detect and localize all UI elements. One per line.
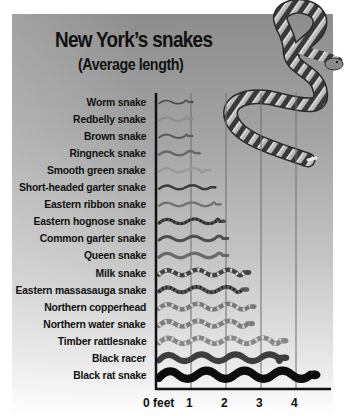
snake-bar: [159, 371, 315, 379]
snake-bar: [159, 100, 192, 104]
snake-head-icon: [221, 220, 226, 224]
snake-head-icon: [225, 237, 230, 240]
x-tick-label: 2: [221, 396, 228, 410]
snake-bar: [159, 134, 192, 138]
category-label: Eastern massasauga snake: [15, 283, 146, 297]
x-tick-label: 3: [256, 396, 263, 410]
snake-bar: [159, 236, 227, 241]
snake-head-icon: [197, 152, 201, 155]
category-label: Short-headed garter snake: [19, 180, 146, 194]
snake-bar: [159, 253, 227, 258]
category-label: Eastern hognose snake: [34, 214, 146, 228]
category-label: Worm snake: [86, 95, 146, 109]
category-label: Common garter snake: [40, 231, 146, 245]
snake-bar: [159, 117, 192, 121]
snake-head-icon: [191, 118, 194, 120]
snake-head-icon: [309, 370, 321, 379]
category-label: Northern copperhead: [44, 300, 146, 314]
snake-bar: [159, 354, 285, 361]
category-label: Queen snake: [84, 248, 146, 262]
snake-head-icon: [191, 135, 194, 137]
category-label: Black rat snake: [73, 368, 146, 382]
category-label: Black racer: [92, 351, 146, 365]
snake-head-icon: [218, 203, 221, 205]
snake-head-icon: [208, 169, 212, 172]
x-tick-label: 4: [291, 396, 298, 410]
x-tick-label: 0 feet: [143, 396, 174, 410]
category-label: Eastern ribbon snake: [44, 197, 146, 211]
snake-head-icon: [225, 254, 230, 258]
category-label: Northern water snake: [44, 317, 146, 331]
category-label: Brown snake: [84, 129, 146, 143]
snake-head-icon: [248, 321, 255, 326]
category-label: Timber rattlesnake: [57, 334, 146, 348]
snake-bar: [159, 151, 199, 155]
x-tick-label: 1: [186, 396, 193, 410]
snake-head-icon: [191, 101, 194, 103]
category-label: Smooth green snake: [47, 163, 146, 177]
snake-head-icon: [281, 338, 289, 344]
snake-bar: [159, 185, 215, 189]
snake-bar: [159, 168, 210, 172]
snake-bar: [159, 202, 220, 206]
category-label: Ringneck snake: [70, 146, 146, 160]
snake-head-icon: [213, 186, 217, 189]
snake-head-icon: [250, 304, 257, 309]
category-label: Milk snake: [95, 266, 146, 280]
snake-head-icon: [243, 287, 249, 291]
category-label: Redbelly snake: [73, 112, 146, 126]
snake-head-icon: [245, 270, 252, 275]
snake-head-icon: [280, 354, 289, 361]
